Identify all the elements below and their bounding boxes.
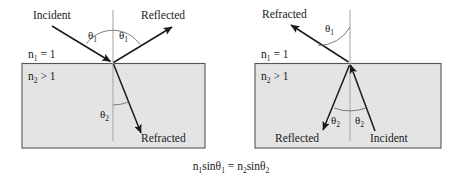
left-panel-n1-label: n1 = 1 <box>28 48 56 63</box>
right-panel-reflected-label: Reflected <box>275 132 319 144</box>
left-panel-incident-ray <box>52 26 111 62</box>
left-panel-theta1-reflected-label: θ1 <box>119 29 128 44</box>
right-panel-theta1-label: θ1 <box>325 22 334 37</box>
right-panel-refracted-label: Refracted <box>262 8 307 20</box>
left-panel-refracted-label: Refracted <box>141 132 186 144</box>
left-panel-theta1-incident-label: θ1 <box>88 29 97 44</box>
right-panel: Refracted Incident Reflected θ1 θ2 θ2 n1… <box>255 8 441 148</box>
left-panel-reflected-label: Reflected <box>141 9 185 21</box>
right-panel-incident-label: Incident <box>370 132 408 144</box>
left-panel-incident-label: Incident <box>33 9 71 21</box>
left-panel: Incident Reflected Refracted θ1 θ1 θ2 n1… <box>22 9 205 148</box>
snell-law-equation: n1sinθ1 = n2sinθ2 <box>193 160 270 175</box>
diagram-canvas: Incident Reflected Refracted θ1 θ1 θ2 n1… <box>0 0 462 177</box>
right-panel-refracted-ray <box>291 25 349 62</box>
right-panel-n1-label: n1 = 1 <box>261 48 289 63</box>
snell-law-figure: Incident Reflected Refracted θ1 θ1 θ2 n1… <box>0 0 462 177</box>
